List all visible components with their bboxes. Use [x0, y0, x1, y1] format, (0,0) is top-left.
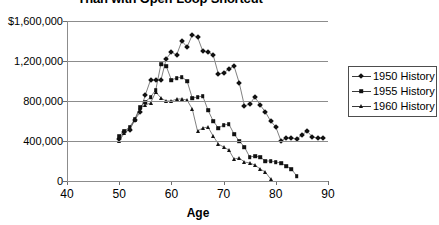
plot-area: [67, 21, 328, 181]
square-marker: [196, 95, 200, 99]
square-marker: [284, 164, 288, 168]
square-marker: [269, 159, 273, 163]
triangle-marker: [128, 126, 132, 130]
chart-container: Than with Open-Loop Shortcut 0400,000800…: [0, 0, 439, 225]
square-marker: [243, 145, 247, 149]
square-marker: [258, 155, 262, 159]
triangle-marker: [211, 134, 215, 138]
triangle-marker: [159, 96, 163, 100]
diamond-marker: [358, 73, 364, 79]
square-marker: [211, 119, 215, 123]
square-marker: [201, 94, 205, 98]
square-marker: [279, 161, 283, 165]
x-tick-label: 90: [313, 188, 343, 200]
gridline: [67, 181, 328, 182]
legend-item-label: 1950 History: [371, 71, 435, 82]
square-marker: [206, 108, 210, 112]
triangle-marker: [227, 148, 231, 152]
square-marker: [222, 123, 226, 127]
square-marker: [190, 96, 194, 100]
triangle-marker: [359, 104, 363, 108]
x-tick-label: 70: [209, 188, 239, 200]
gridline: [67, 21, 328, 22]
square-marker: [232, 132, 236, 136]
square-marker: [295, 174, 299, 178]
square-marker: [227, 122, 231, 126]
legend-item-1960-history[interactable]: 1960 History: [349, 99, 436, 114]
triangle-marker: [206, 125, 210, 129]
square-marker: [359, 89, 363, 93]
triangle-marker: [253, 163, 257, 167]
triangle-marker: [242, 160, 246, 164]
square-marker: [185, 79, 189, 83]
diamond-icon: [352, 71, 371, 82]
square-marker: [180, 75, 184, 79]
legend-item-1950-history[interactable]: 1950 History: [349, 69, 436, 84]
square-marker: [159, 62, 163, 66]
triangle-icon: [352, 101, 371, 112]
x-axis-title: Age: [67, 206, 329, 220]
triangle-marker: [190, 107, 194, 111]
legend-item-label: 1960 History: [371, 101, 435, 112]
square-marker: [175, 76, 179, 80]
chart-legend: 1950 History1955 History1960 History: [348, 66, 437, 117]
triangle-marker: [196, 129, 200, 133]
triangle-marker: [248, 161, 252, 165]
square-marker: [149, 95, 153, 99]
triangle-marker: [122, 131, 126, 135]
square-marker: [290, 167, 294, 171]
square-marker: [264, 159, 268, 163]
square-icon: [352, 86, 371, 97]
legend-item-1955-history[interactable]: 1955 History: [349, 84, 436, 99]
triangle-marker: [263, 170, 267, 174]
triangle-marker: [143, 103, 147, 107]
triangle-marker: [216, 142, 220, 146]
square-marker: [253, 154, 257, 158]
square-marker: [217, 126, 221, 130]
triangle-marker: [154, 90, 158, 94]
gridline: [67, 61, 328, 62]
square-marker: [274, 160, 278, 164]
square-marker: [117, 134, 121, 138]
triangle-marker: [201, 126, 205, 130]
square-marker: [164, 64, 168, 68]
triangle-marker: [138, 106, 142, 110]
triangle-marker: [258, 167, 262, 171]
triangle-marker: [237, 156, 241, 160]
square-marker: [248, 155, 252, 159]
triangle-marker: [232, 157, 236, 161]
x-tick-label: 80: [261, 188, 291, 200]
x-tick-label: 60: [156, 188, 186, 200]
triangle-marker: [222, 145, 226, 149]
gridline: [67, 101, 328, 102]
x-tick-label: 50: [104, 188, 134, 200]
triangle-marker: [133, 118, 137, 122]
gridline: [67, 141, 328, 142]
x-tick-label: 40: [52, 188, 82, 200]
square-marker: [170, 78, 174, 82]
legend-item-label: 1955 History: [371, 86, 435, 97]
